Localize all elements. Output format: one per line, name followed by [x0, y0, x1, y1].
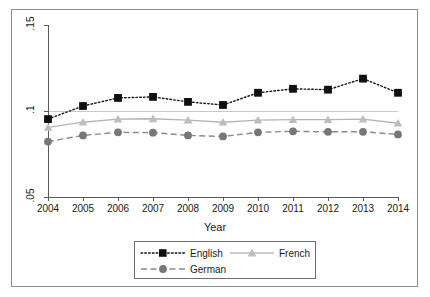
data-point-english	[394, 89, 402, 97]
data-point-english	[324, 86, 332, 94]
legend-entry-german[interactable]: German	[140, 261, 226, 277]
data-point-english	[184, 98, 192, 106]
data-point-english	[79, 102, 87, 110]
x-tick-label: 2014	[378, 203, 418, 214]
y-tick-label: .15	[25, 9, 36, 39]
data-point-english	[149, 93, 157, 101]
legend-label-german: German	[190, 264, 226, 275]
legend-sample-german	[140, 262, 186, 276]
legend-label-english: English	[190, 248, 223, 259]
y-tick-marks	[44, 25, 48, 197]
data-point-german	[219, 133, 227, 141]
x-tick-label: 2013	[343, 203, 383, 214]
data-point-english	[359, 75, 367, 83]
data-point-german	[324, 128, 332, 136]
x-tick-label: 2005	[63, 203, 103, 214]
data-point-german	[79, 132, 87, 140]
data-point-german	[114, 128, 122, 136]
x-tick-label: 2012	[308, 203, 348, 214]
x-tick-label: 2004	[28, 203, 68, 214]
x-tick-marks	[48, 197, 398, 201]
x-tick-label: 2007	[133, 203, 173, 214]
data-point-german	[359, 128, 367, 136]
plot-area	[48, 25, 398, 197]
legend-label-french: French	[279, 248, 310, 259]
x-axis-title: Year	[0, 221, 430, 233]
y-tick-label: .1	[25, 95, 36, 125]
data-point-english	[289, 85, 297, 93]
chart-figure: .05.1.15 2004200520062007200820092010201…	[0, 0, 430, 297]
data-point-german	[149, 129, 157, 137]
legend-entry-french[interactable]: French	[229, 245, 310, 261]
data-point-german	[394, 130, 402, 138]
data-point-german	[44, 138, 52, 146]
data-point-english	[44, 115, 52, 123]
data-point-english	[219, 101, 227, 109]
legend-sample-english	[140, 246, 186, 260]
x-tick-label: 2009	[203, 203, 243, 214]
data-point-german	[184, 132, 192, 140]
x-tick-label: 2006	[98, 203, 138, 214]
data-series-group	[44, 75, 403, 146]
data-point-english	[254, 89, 262, 97]
data-point-english	[114, 94, 122, 102]
chart-legend: English French German	[134, 241, 316, 279]
x-tick-label: 2010	[238, 203, 278, 214]
data-point-german	[254, 128, 262, 136]
x-tick-label: 2008	[168, 203, 208, 214]
data-point-german	[289, 127, 297, 135]
legend-sample-french	[229, 246, 275, 260]
legend-entry-english[interactable]: English	[140, 245, 223, 261]
x-tick-label: 2011	[273, 203, 313, 214]
series-line-english	[48, 79, 398, 119]
